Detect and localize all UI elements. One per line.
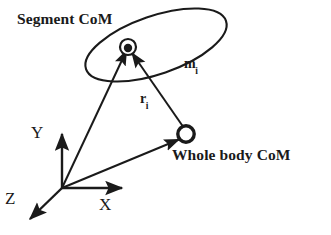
vector-origin-to-whole-body-com <box>62 140 179 189</box>
segment-mass-label: mi <box>184 57 199 71</box>
center-of-mass-figure: Segment CoM Whole body CoM mi ri Y X Z <box>0 0 331 235</box>
whole-body-com-label: Whole body CoM <box>172 147 291 163</box>
segment-com-marker-core <box>124 44 132 52</box>
axis-label-z: Z <box>5 190 15 207</box>
vector-origin-to-segment-com <box>62 51 127 189</box>
position-vector-label: ri <box>140 92 149 106</box>
axis-label-y: Y <box>31 124 43 141</box>
segment-mass-subscript: i <box>195 66 198 76</box>
axis-line-z <box>30 188 62 219</box>
position-vector-subscript: i <box>146 101 149 111</box>
segment-mass-symbol: m <box>184 56 196 71</box>
axis-label-x: X <box>99 196 111 213</box>
segment-com-label: Segment CoM <box>17 11 112 27</box>
whole-body-com-marker-ring <box>178 126 194 142</box>
diagram-canvas <box>0 0 331 235</box>
